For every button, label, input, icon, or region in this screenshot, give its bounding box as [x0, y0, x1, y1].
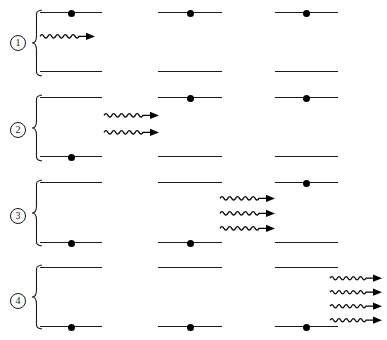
electron-dot [303, 10, 310, 17]
photon-arrowhead [373, 316, 382, 323]
electron-dot [303, 180, 310, 187]
photon-wave [330, 304, 374, 307]
photon-arrowhead [86, 32, 95, 39]
electron-dot [68, 10, 75, 17]
electron-dot [68, 324, 75, 331]
energy-level-lower [275, 71, 338, 72]
photon-wave [330, 276, 374, 279]
photon-wave [330, 318, 374, 321]
electron-dot [187, 240, 194, 247]
energy-level-lower [158, 71, 222, 72]
photon-arrow [330, 311, 382, 329]
step-number-1: 1 [10, 35, 26, 51]
brace-path [32, 95, 42, 161]
energy-level-upper [158, 267, 222, 268]
photon-wave [220, 196, 267, 199]
energy-level-upper [275, 267, 338, 268]
energy-level-upper [158, 182, 222, 183]
energy-level-lower [275, 242, 338, 243]
photon-arrowhead [266, 209, 275, 216]
energy-level-lower [40, 71, 102, 72]
step-number-2: 2 [10, 122, 26, 138]
photon-arrowhead [373, 274, 382, 281]
photon-arrowhead [373, 302, 382, 309]
step-number-3: 3 [10, 208, 26, 224]
photon-arrowhead [266, 224, 275, 231]
photon-arrow [104, 123, 159, 142]
photon-wave [104, 113, 151, 116]
energy-level-upper [40, 97, 102, 98]
photon-arrowhead [373, 288, 382, 295]
stimulated-emission-figure: 1234 [0, 0, 387, 340]
photon-wave [330, 290, 374, 293]
step-number-4: 4 [10, 293, 26, 309]
electron-dot [303, 95, 310, 102]
step-brace [32, 265, 42, 329]
electron-dot [68, 154, 75, 161]
electron-dot [187, 95, 194, 102]
photon-arrow [40, 27, 95, 46]
electron-dot [68, 240, 75, 247]
step-brace [32, 180, 42, 246]
brace-path [32, 180, 42, 246]
step-brace [32, 95, 42, 161]
energy-level-upper [40, 182, 102, 183]
brace-path [32, 265, 42, 329]
energy-level-lower [275, 156, 338, 157]
energy-level-upper [40, 267, 102, 268]
photon-wave [220, 226, 267, 229]
photon-arrow [220, 219, 275, 238]
photon-wave [220, 211, 267, 214]
electron-dot [187, 324, 194, 331]
photon-arrowhead [266, 194, 275, 201]
photon-arrowhead [150, 128, 159, 135]
photon-arrow [104, 106, 159, 125]
photon-wave [40, 34, 87, 37]
electron-dot [187, 10, 194, 17]
electron-dot [303, 324, 310, 331]
photon-wave [104, 130, 151, 133]
energy-level-lower [158, 156, 222, 157]
photon-arrowhead [150, 111, 159, 118]
